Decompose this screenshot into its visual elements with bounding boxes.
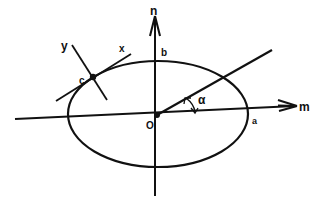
ellipse-coordinate-diagram: n m O a b α c x y — [0, 0, 322, 207]
y-axis-label: y — [61, 39, 68, 53]
tangent-point — [90, 74, 96, 80]
m-axis-label: m — [299, 100, 310, 114]
angle-label: α — [198, 93, 206, 107]
origin-point — [154, 112, 160, 118]
origin-label: O — [146, 120, 154, 131]
m-axis-arrowhead-icon — [278, 100, 297, 111]
x-axis-label: x — [119, 43, 125, 54]
n-axis-label: n — [150, 4, 157, 18]
angle-ray — [157, 50, 272, 115]
semi-major-label: a — [252, 116, 258, 126]
point-c-label: c — [79, 75, 85, 86]
semi-minor-label: b — [161, 47, 167, 58]
